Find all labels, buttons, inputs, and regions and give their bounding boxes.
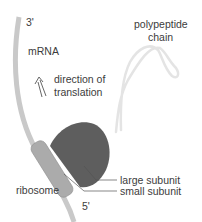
translation-diagram: 3' mRNA direction of translation polypep… (0, 0, 202, 222)
mrna-label: mRNA (28, 45, 59, 57)
polypeptide-chain (116, 46, 178, 132)
three-prime-label: 3' (26, 16, 34, 28)
ribosome-label: ribosome (16, 184, 59, 196)
five-prime-label: 5' (82, 200, 90, 212)
direction-label-line2: translation (54, 86, 102, 98)
direction-label-line1: direction of (54, 73, 105, 85)
small-subunit-label: small subunit (120, 185, 181, 197)
polypeptide-label-line2: chain (148, 31, 173, 43)
polypeptide-label-line1: polypeptide (134, 18, 188, 30)
direction-arrow-icon (35, 77, 46, 97)
